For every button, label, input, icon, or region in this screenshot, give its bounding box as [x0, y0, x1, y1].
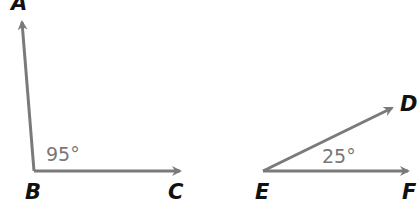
angle-abc-measure: 95°: [46, 145, 80, 164]
angle-def-measure: 25°: [322, 147, 356, 166]
ray-ba: [22, 22, 34, 171]
label-e: E: [255, 182, 269, 203]
label-c: C: [168, 182, 183, 203]
label-d: D: [400, 94, 417, 115]
label-f: F: [402, 182, 416, 203]
label-a: A: [11, 0, 27, 14]
label-b: B: [25, 182, 41, 203]
